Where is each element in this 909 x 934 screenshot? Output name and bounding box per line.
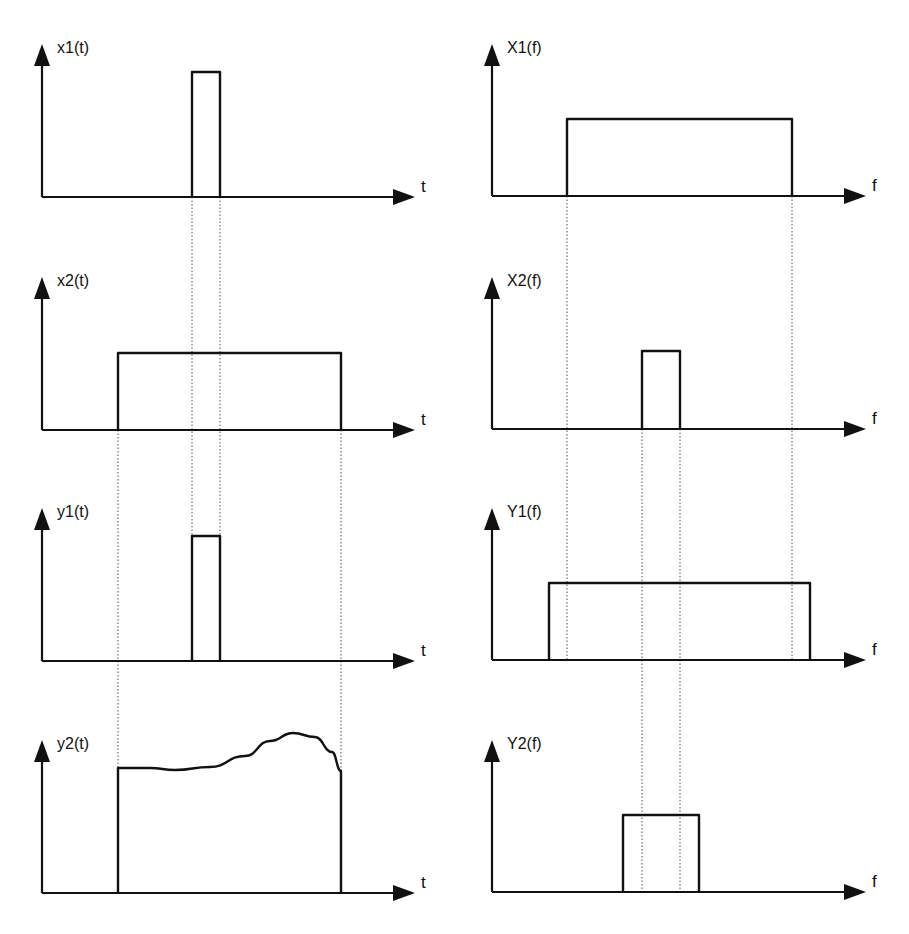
signal-waveform [623,815,699,892]
axis-variable-label: t [421,177,426,196]
axis-variable-label: f [872,409,877,428]
arrow-right-icon [393,422,415,438]
signal-waveform [118,353,341,430]
signal-waveform [567,119,792,196]
panel-X1f: X1(f)f [484,39,877,204]
panel-label: y2(t) [57,735,89,752]
arrow-up-icon [484,277,500,299]
arrow-up-icon [34,740,50,762]
panels: x1(t)tX1(f)fx2(t)tX2(f)fy1(t)tY1(f)fy2(t… [34,39,877,901]
arrow-right-icon [393,885,415,901]
panel-label: Y2(f) [507,735,542,752]
signal-waveform [642,351,680,429]
axis-variable-label: f [872,872,877,891]
signal-waveform [192,72,220,197]
axis-variable-label: t [421,641,426,660]
arrow-up-icon [34,508,50,530]
axis-variable-label: t [421,873,426,892]
panel-x1t: x1(t)t [34,39,426,205]
signal-diagram: x1(t)tX1(f)fx2(t)tX2(f)fy1(t)tY1(f)fy2(t… [0,0,909,934]
signal-waveform [118,733,341,893]
arrow-up-icon [484,508,500,530]
signal-waveform [192,536,220,661]
panel-y1t: y1(t)t [34,503,426,669]
arrow-right-icon [844,421,866,437]
arrow-up-icon [484,740,500,762]
arrow-up-icon [484,44,500,66]
arrow-up-icon [34,44,50,66]
panel-label: x2(t) [57,272,89,289]
arrow-right-icon [844,884,866,900]
panel-x2t: x2(t)t [34,272,426,438]
panel-y2t: y2(t)t [34,733,426,901]
panel-label: y1(t) [57,503,89,520]
arrow-up-icon [34,277,50,299]
panel-label: X1(f) [507,39,542,56]
arrow-right-icon [393,653,415,669]
arrow-right-icon [844,652,866,668]
panel-label: X2(f) [507,272,542,289]
arrow-right-icon [393,189,415,205]
panel-X2f: X2(f)f [484,272,877,437]
panel-label: Y1(f) [507,503,542,520]
axis-variable-label: f [872,640,877,659]
arrow-right-icon [844,188,866,204]
panel-label: x1(t) [57,39,89,56]
axis-variable-label: t [421,410,426,429]
axis-variable-label: f [872,176,877,195]
